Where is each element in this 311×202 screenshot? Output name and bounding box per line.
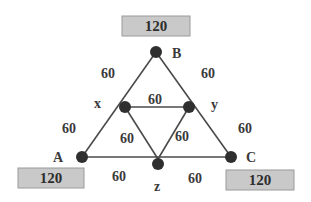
node-x — [119, 101, 131, 113]
weight-B-y: 60 — [201, 66, 215, 81]
node-label-C: C — [246, 150, 256, 165]
node-label-B: B — [172, 46, 181, 61]
node-label-x: x — [94, 96, 101, 111]
weight-A-z: 60 — [112, 169, 126, 184]
value-box-B: 120 — [122, 16, 190, 36]
node-B — [150, 46, 162, 58]
value-box-B-text: 120 — [145, 18, 168, 34]
node-label-A: A — [53, 150, 64, 165]
weight-B-x: 60 — [101, 66, 115, 81]
weight-y-C: 60 — [238, 121, 252, 136]
weight-y-z: 60 — [175, 129, 189, 144]
node-y — [183, 101, 195, 113]
value-box-A-text: 120 — [40, 170, 63, 186]
value-box-A: 120 — [18, 168, 84, 188]
value-box-C: 120 — [226, 170, 294, 190]
node-label-z: z — [154, 179, 160, 194]
weight-x-z: 60 — [120, 131, 134, 146]
node-z — [152, 158, 164, 170]
weight-x-A: 60 — [62, 121, 76, 136]
node-A — [76, 151, 88, 163]
weight-z-C: 60 — [188, 171, 202, 186]
triangle-network-diagram: B A C x y z 60 60 60 60 60 60 60 60 60 1… — [0, 0, 311, 202]
node-C — [225, 151, 237, 163]
value-box-C-text: 120 — [249, 172, 272, 188]
weight-x-y: 60 — [148, 92, 162, 107]
node-label-y: y — [211, 97, 218, 112]
